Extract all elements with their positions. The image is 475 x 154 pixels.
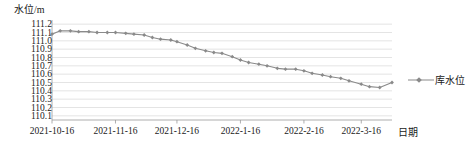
legend-label: 库水位 [435,72,465,87]
data-point-marker [329,75,333,79]
chart-legend: 库水位 [408,72,465,87]
x-axis-tick-label: 2022-2-16 [284,126,324,136]
data-point-marker [294,67,298,71]
data-point-marker [150,36,154,40]
data-point-marker [220,51,224,55]
x-axis-tick-label: 2021-10-16 [30,126,74,136]
data-point-marker [105,31,109,35]
data-point-marker [77,30,81,34]
x-axis-tick-label: 2022-1-16 [221,126,261,136]
data-point-marker [390,81,394,85]
data-point-marker [185,43,189,47]
water-level-line-chart: 水位/m 110.1110.2110.3110.4110.5110.6110.7… [0,0,475,154]
data-point-marker [302,69,306,73]
data-point-marker [378,86,382,90]
data-point-marker [320,73,324,77]
x-axis-title: 日期 [398,124,418,139]
y-axis-tick-label: 111.2 [6,19,52,29]
data-point-marker [212,51,216,55]
data-point-marker [87,30,91,34]
data-point-marker [247,61,251,65]
data-point-marker [310,71,314,75]
data-point-marker [169,38,173,42]
data-point-marker [239,58,243,62]
data-point-marker [124,31,128,35]
data-point-marker [142,33,146,37]
data-point-marker [230,55,234,59]
data-point-marker [175,40,179,44]
data-point-marker [275,66,279,70]
data-point-marker [339,76,343,80]
legend-line-marker-icon [408,75,434,85]
data-point-marker [114,31,118,35]
data-point-marker [193,46,197,50]
x-axis-tick-label: 2021-11-16 [93,126,137,136]
data-point-marker [265,64,269,68]
data-point-marker [284,67,288,71]
x-axis-tick-label: 2021-12-16 [155,126,199,136]
data-point-marker [95,31,99,35]
data-point-marker [368,85,372,89]
x-axis-tick-label: 2022-3-16 [341,126,381,136]
